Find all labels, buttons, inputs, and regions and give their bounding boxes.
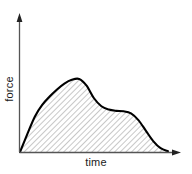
y-axis-arrow-icon	[17, 13, 23, 22]
force-time-plot	[0, 0, 192, 174]
x-axis-label: time	[0, 156, 192, 168]
curve-fill-area	[20, 79, 168, 152]
chart-figure: time force	[0, 0, 192, 174]
x-axis-arrow-icon	[172, 150, 181, 156]
y-axis-label: force	[3, 61, 15, 117]
